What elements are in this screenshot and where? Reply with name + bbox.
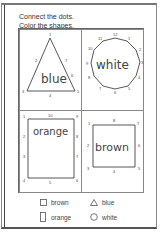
legend-label-orange: orange: [51, 214, 71, 221]
circle-word: white: [96, 58, 129, 72]
svg-text:12: 12: [113, 32, 118, 37]
legend-item-orange: orange: [40, 212, 71, 222]
svg-text:8: 8: [76, 134, 79, 139]
svg-text:8: 8: [88, 75, 91, 80]
triangle-icon: [90, 199, 98, 206]
svg-text:8: 8: [113, 118, 116, 123]
svg-text:7: 7: [65, 58, 68, 63]
svg-text:5: 5: [77, 89, 80, 94]
svg-text:6: 6: [114, 90, 117, 95]
svg-text:3: 3: [22, 89, 25, 94]
cell-triangle: 1 2 3 4 5 6 7 blue: [19, 29, 82, 111]
rectangle-icon: [40, 212, 47, 222]
circle-icon: [90, 213, 98, 221]
svg-text:10: 10: [48, 113, 53, 118]
triangle-word: blue: [41, 72, 67, 86]
svg-text:4: 4: [113, 169, 116, 174]
svg-text:1: 1: [23, 114, 26, 119]
circle-dot-puzzle: 12 1 2 3 4 5 6 7 8 9 10 11 white: [82, 30, 145, 112]
svg-text:7: 7: [99, 86, 102, 91]
svg-text:6: 6: [76, 178, 79, 183]
svg-text:4: 4: [49, 93, 52, 98]
svg-text:9: 9: [86, 61, 89, 66]
svg-text:3: 3: [23, 154, 26, 159]
triangle-dot-puzzle: 1 2 3 4 5 6 7 blue: [20, 30, 83, 112]
svg-text:11: 11: [98, 36, 103, 41]
cell-circle: 12 1 2 3 4 5 6 7 8 9 10 11 white: [81, 29, 144, 111]
rectangle-word: orange: [33, 126, 68, 137]
svg-text:2: 2: [87, 143, 90, 148]
rectangle-dot-puzzle: 1 2 3 4 5 6 7 8 9 10 orange: [20, 111, 83, 194]
svg-text:9: 9: [76, 114, 79, 119]
svg-text:2: 2: [23, 134, 26, 139]
svg-text:1: 1: [88, 121, 91, 126]
svg-text:6: 6: [138, 143, 141, 148]
svg-text:7: 7: [76, 154, 79, 159]
legend-label-white: white: [102, 214, 117, 221]
svg-text:2: 2: [139, 47, 142, 52]
legend-label-blue: blue: [102, 199, 114, 206]
legend-item-white: white: [90, 213, 117, 221]
legend-item-brown: brown: [40, 199, 69, 206]
left-margin-rule: [4, 5, 5, 227]
svg-text:5: 5: [138, 166, 141, 171]
svg-text:1: 1: [49, 32, 52, 37]
svg-text:5: 5: [128, 86, 131, 91]
shapes-grid: 1 2 3 4 5 6 7 blue 12 1 2 3 4 5 6 7 8 9 …: [18, 28, 144, 193]
square-dot-puzzle: 1 2 3 4 5 6 7 8 brown: [82, 111, 145, 194]
cell-rectangle: 1 2 3 4 5 6 7 8 9 10 orange: [19, 110, 82, 193]
svg-text:4: 4: [138, 75, 141, 80]
svg-text:4: 4: [23, 178, 26, 183]
svg-text:5: 5: [49, 180, 52, 185]
svg-text:3: 3: [87, 166, 90, 171]
svg-text:1: 1: [128, 36, 131, 41]
cell-square: 1 2 3 4 5 6 7 8 brown: [81, 110, 144, 193]
legend-label-brown: brown: [51, 199, 69, 206]
square-icon: [40, 199, 47, 206]
instruction-connect: Connect the dots.: [19, 12, 74, 21]
svg-text:3: 3: [141, 60, 144, 65]
svg-text:6: 6: [71, 73, 74, 78]
svg-text:10: 10: [88, 46, 93, 51]
square-word: brown: [95, 141, 129, 154]
svg-text:7: 7: [137, 121, 140, 126]
svg-text:2: 2: [35, 58, 38, 63]
legend-item-blue: blue: [90, 199, 114, 206]
